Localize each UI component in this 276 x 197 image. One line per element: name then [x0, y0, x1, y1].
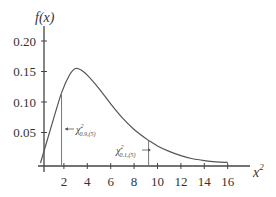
x-axis-title: x2: [252, 162, 264, 180]
y-tick-label: 0.15: [13, 64, 36, 79]
arrowhead-icon: [65, 127, 68, 131]
y-tick-label: 0.05: [13, 125, 36, 140]
annotation-chi2-0.9: χ20.9,(5): [65, 123, 95, 138]
svg-text:χ20.1,(5): χ20.1,(5): [115, 144, 135, 159]
annotation-chi2-0.1: χ20.1,(5): [115, 144, 151, 159]
y-ticks: 0.050.100.150.20: [13, 34, 47, 141]
svg-text:χ20.9,(5): χ20.9,(5): [75, 123, 95, 138]
arrowhead-icon: [148, 148, 151, 152]
x-tick-label: 12: [174, 174, 187, 189]
x-tick-label: 10: [151, 174, 164, 189]
y-tick-label: 0.20: [13, 34, 36, 49]
x-tick-label: 4: [84, 174, 91, 189]
x-tick-label: 8: [131, 174, 138, 189]
x-tick-label: 16: [221, 174, 235, 189]
y-tick-label: 0.10: [13, 95, 36, 110]
y-axis-title: f(x): [35, 10, 55, 26]
x-tick-label: 14: [198, 174, 212, 189]
x-tick-label: 2: [61, 174, 68, 189]
chi-square-density-chart: f(x) x2 0.050.100.150.20 246810121416 χ2…: [0, 0, 276, 197]
x-tick-label: 6: [107, 174, 114, 189]
x-ticks: 246810121416: [61, 163, 235, 189]
density-curve: [41, 68, 228, 163]
